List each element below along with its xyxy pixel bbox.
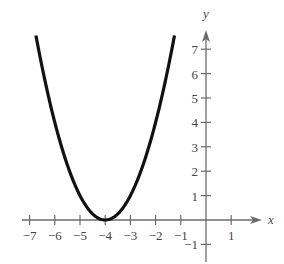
y-tick-label: 4 xyxy=(192,115,199,130)
y-tick-label: 3 xyxy=(192,140,199,155)
parabola-graph: x −7−6−5−4−3−2−11 y −11234567 xyxy=(0,0,284,264)
y-axis: y −11234567 xyxy=(184,6,211,262)
y-tick-label: 1 xyxy=(192,189,199,204)
y-tick-label: 5 xyxy=(192,91,199,106)
y-tick-label: 2 xyxy=(192,164,199,179)
x-tick-label: −3 xyxy=(123,228,137,243)
y-tick-label: 6 xyxy=(192,67,199,82)
x-tick-label: −4 xyxy=(98,228,112,243)
y-axis-label: y xyxy=(201,6,209,21)
x-axis: x −7−6−5−4−3−2−11 xyxy=(22,212,274,243)
y-tick-label: 7 xyxy=(192,42,199,57)
x-axis-ticks: −7−6−5−4−3−2−11 xyxy=(23,215,235,243)
x-tick-label: −6 xyxy=(48,228,62,243)
y-tick-label: −1 xyxy=(184,237,198,252)
x-tick-label: −2 xyxy=(149,228,163,243)
parabola-curve xyxy=(36,35,175,220)
x-tick-label: 1 xyxy=(228,228,235,243)
y-axis-ticks: −11234567 xyxy=(184,42,211,252)
x-tick-label: −5 xyxy=(73,228,87,243)
x-tick-label: −7 xyxy=(23,228,37,243)
x-axis-label: x xyxy=(267,212,274,227)
